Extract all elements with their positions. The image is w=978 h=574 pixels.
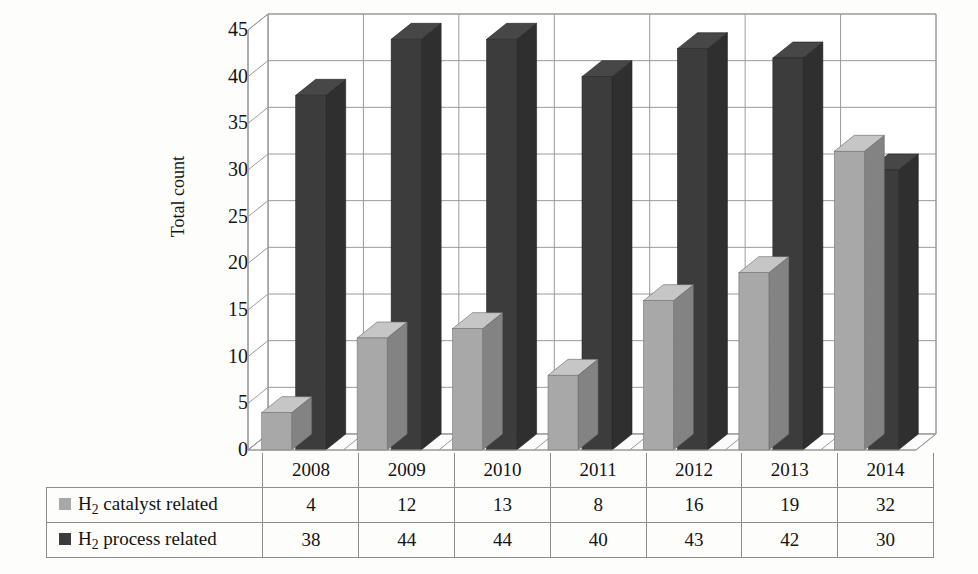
data-table: 2008200920102011201220132014 H2 catalyst… <box>46 453 934 558</box>
legend-label-cell: H2 catalyst related <box>47 488 263 523</box>
bar-side-face <box>898 154 918 450</box>
bar-2013-series1 <box>739 257 789 450</box>
table-value-cell: 43 <box>646 523 742 558</box>
bar-side-face <box>864 135 884 450</box>
bar-side-face <box>387 322 407 450</box>
table-body: H2 catalyst related412138161932H2 proces… <box>47 488 934 558</box>
bar-side-face <box>612 61 632 450</box>
table-value-cell: 40 <box>550 523 646 558</box>
bar-front-face <box>262 413 292 450</box>
bar-side-face <box>707 33 727 450</box>
table-value-cell: 4 <box>263 488 359 523</box>
bar-front-face <box>548 375 578 450</box>
table-corner-cell <box>47 453 263 488</box>
table-value-cell: 44 <box>455 523 551 558</box>
legend-label-cell: H2 process related <box>47 523 263 558</box>
bar-side-face <box>673 285 693 450</box>
left-wall <box>248 14 268 450</box>
legend-label-text: H2 process related <box>78 528 217 549</box>
legend-swatch-icon <box>59 533 71 545</box>
table-value-cell: 12 <box>359 488 455 523</box>
legend-swatch-icon <box>59 498 71 510</box>
table-value-cell: 16 <box>646 488 742 523</box>
table-header-year: 2010 <box>455 453 551 488</box>
bar-side-face <box>517 23 537 450</box>
bar-side-face <box>421 23 441 450</box>
bar-2010-series1 <box>453 313 503 450</box>
table-value-cell: 38 <box>263 523 359 558</box>
table-row: H2 process related38444440434230 <box>47 523 934 558</box>
bar-2014-series1 <box>834 135 884 450</box>
bar-2012-series1 <box>643 285 693 450</box>
bar-side-face <box>769 257 789 450</box>
bar-side-face <box>803 42 823 450</box>
bar-2009-series1 <box>357 322 407 450</box>
table-header-year: 2008 <box>263 453 359 488</box>
table-header-year: 2009 <box>359 453 455 488</box>
table-header-row: 2008200920102011201220132014 <box>47 453 934 488</box>
table-header-year: 2013 <box>742 453 838 488</box>
table-value-cell: 30 <box>838 523 934 558</box>
bar-side-face <box>326 79 346 450</box>
chart-figure: Total count 454035302520151050 200820092… <box>0 0 978 574</box>
bar-front-face <box>739 273 769 450</box>
table-value-cell: 44 <box>359 523 455 558</box>
table-value-cell: 42 <box>742 523 838 558</box>
bar-2011-series1 <box>548 359 598 450</box>
chart-svg <box>0 0 978 470</box>
table-value-cell: 32 <box>838 488 934 523</box>
table-value-cell: 8 <box>550 488 646 523</box>
bar-2008-series2 <box>296 79 346 450</box>
bar-front-face <box>834 151 864 450</box>
table-header-year: 2014 <box>838 453 934 488</box>
legend-label-text: H2 catalyst related <box>78 493 218 514</box>
bar-front-face <box>357 338 387 450</box>
table-header-year: 2012 <box>646 453 742 488</box>
table-value-cell: 13 <box>455 488 551 523</box>
table-header-year: 2011 <box>550 453 646 488</box>
bar-front-face <box>643 301 673 450</box>
bar-side-face <box>483 313 503 450</box>
table-value-cell: 19 <box>742 488 838 523</box>
chart-3d-canvas <box>0 0 978 470</box>
bar-front-face <box>453 329 483 450</box>
table-row: H2 catalyst related412138161932 <box>47 488 934 523</box>
table-header: 2008200920102011201220132014 <box>47 453 934 488</box>
plot-area: Total count 454035302520151050 <box>0 0 978 470</box>
